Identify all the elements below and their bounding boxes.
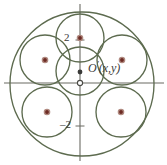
origin-marker [77,80,82,85]
origin-point-label-coords: (x,y) [99,61,121,75]
axes-group [4,4,164,161]
tick-label-y-neg2: –2 [60,119,71,130]
point-o-prime [78,70,83,75]
figure-canvas [0,0,167,165]
origin-point-label: O′(x,y) [88,60,120,74]
tick-label-y-2: 2 [64,32,70,43]
geometry-figure: 2 –2 O′(x,y) [0,0,167,165]
origin-point-label-main: O [88,61,97,75]
point-circle-top-center [77,35,82,40]
point-circle-lower-right-center [118,109,123,114]
satellite-circles-group [20,14,147,137]
point-circle-lower-left-center [44,109,49,114]
point-circle-upper-left-center [42,57,47,62]
